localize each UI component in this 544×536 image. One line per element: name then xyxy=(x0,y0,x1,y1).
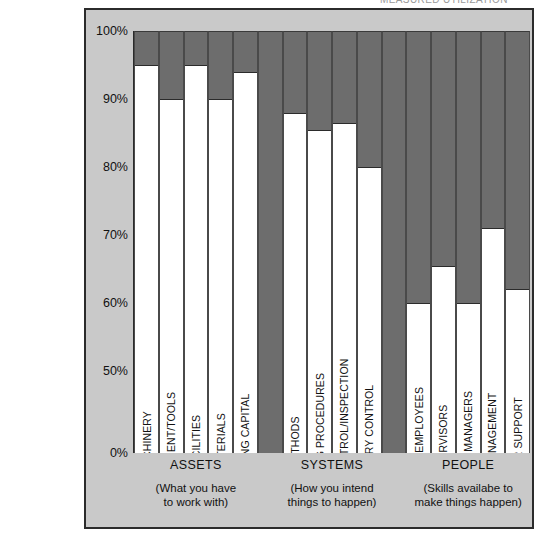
group-label-people: PEOPLE(Skills availabe tomake things hap… xyxy=(406,458,530,509)
group-name: PEOPLE xyxy=(406,458,530,472)
clipped-top-caption: MEASURED UTILIZATION xyxy=(380,0,530,5)
bar-fill: WORKING CAPITAL xyxy=(234,72,257,453)
y-axis-tick-label: 60% xyxy=(103,296,128,310)
bar-column[interactable]: TOP MANAGEMENT xyxy=(481,31,506,453)
bar-fill: TOP MANAGEMENT xyxy=(482,228,505,453)
y-axis: 100%90%80%70%60%50%0% xyxy=(86,31,134,453)
group-description-line: (What you have xyxy=(134,481,258,495)
y-axis-tick-label: 80% xyxy=(103,160,128,174)
bar-fill: MIDDLE MANAGERS xyxy=(457,303,480,453)
bar-column[interactable]: EQUIPMENT/TOOLS xyxy=(159,31,184,453)
group-separator-column xyxy=(382,31,407,453)
group-description: (How you intendthings to happen) xyxy=(283,481,382,509)
chart-figure: 100%90%80%70%60%50%0% MACHINERYEQUIPMENT… xyxy=(84,8,534,529)
bar-category-label: MATERIALS xyxy=(209,249,232,449)
bar-category-label: MACHINERY xyxy=(135,249,158,449)
bar-column[interactable]: WORKING CAPITAL xyxy=(233,31,258,453)
group-name: SYSTEMS xyxy=(283,458,382,472)
bar-category-label: QUALITY CONTROL/INSPECTION xyxy=(333,249,356,449)
bar-fill: MACHINERY xyxy=(135,65,158,453)
y-axis-tick-label: 50% xyxy=(103,364,128,378)
bar-column[interactable]: OTHER SUPPORT xyxy=(505,31,530,453)
bar-category-label: FACILITIES xyxy=(185,249,208,449)
group-description-line: things to happen) xyxy=(283,495,382,509)
bar-fill: SUPERVISORS xyxy=(432,266,455,453)
group-name: ASSETS xyxy=(134,458,258,472)
bar-category-label: MIDDLE MANAGERS xyxy=(457,249,480,449)
y-axis-tick-label: 100% xyxy=(96,24,128,38)
bar-fill: HOURLY EMPLOYEES xyxy=(407,303,430,453)
clipped-top-caption-text: MEASURED UTILIZATION xyxy=(380,0,530,5)
group-description-line: (Skills availabe to xyxy=(406,481,530,495)
bar-column[interactable]: HOURLY EMPLOYEES xyxy=(406,31,431,453)
bar-column[interactable]: INVENTORY CONTROL xyxy=(357,31,382,453)
bar-column[interactable]: MIDDLE MANAGERS xyxy=(456,31,481,453)
bar-column[interactable]: FACILITIES xyxy=(184,31,209,453)
bar-column[interactable]: METHODS xyxy=(283,31,308,453)
bar-column[interactable]: QUALITY CONTROL/INSPECTION xyxy=(332,31,357,453)
group-label-systems: SYSTEMS(How you intendthings to happen) xyxy=(283,458,382,509)
group-description-line: make things happen) xyxy=(406,495,530,509)
bar-category-label: INVENTORY CONTROL xyxy=(358,249,381,449)
bar-fill: OTHER SUPPORT xyxy=(506,289,529,453)
bar-fill: OPERATING PROCEDURES xyxy=(308,130,331,453)
bar-category-label: OPERATING PROCEDURES xyxy=(308,249,331,449)
bar-category-label: EQUIPMENT/TOOLS xyxy=(160,249,183,449)
y-axis-tick-label: 70% xyxy=(103,228,128,242)
plot-area: MACHINERYEQUIPMENT/TOOLSFACILITIESMATERI… xyxy=(134,31,530,453)
group-separator-column xyxy=(258,31,283,453)
y-axis-tick-label: 90% xyxy=(103,92,128,106)
group-description-line: (How you intend xyxy=(283,481,382,495)
bar-category-label: OTHER SUPPORT xyxy=(506,249,529,449)
bar-fill: EQUIPMENT/TOOLS xyxy=(160,99,183,453)
bar-fill: INVENTORY CONTROL xyxy=(358,167,381,453)
y-axis-tick-label: 0% xyxy=(110,446,128,460)
bar-category-label: SUPERVISORS xyxy=(432,249,455,449)
bar-category-label: TOP MANAGEMENT xyxy=(482,249,505,449)
group-description-line: to work with) xyxy=(134,495,258,509)
bar-category-label: HOURLY EMPLOYEES xyxy=(407,249,430,449)
group-description: (Skills availabe tomake things happen) xyxy=(406,481,530,509)
bar-category-label: WORKING CAPITAL xyxy=(234,249,257,449)
bar-column[interactable]: OPERATING PROCEDURES xyxy=(307,31,332,453)
bar-column[interactable]: MACHINERY xyxy=(134,31,159,453)
bar-fill: METHODS xyxy=(284,113,307,453)
bar-fill: MATERIALS xyxy=(209,99,232,453)
group-label-row: ASSETS(What you haveto work with)SYSTEMS… xyxy=(134,458,530,526)
bar-column[interactable]: SUPERVISORS xyxy=(431,31,456,453)
group-label-assets: ASSETS(What you haveto work with) xyxy=(134,458,258,509)
bar-fill: FACILITIES xyxy=(185,65,208,453)
group-description: (What you haveto work with) xyxy=(134,481,258,509)
bar-fill: QUALITY CONTROL/INSPECTION xyxy=(333,123,356,453)
bar-category-label: METHODS xyxy=(284,249,307,449)
bar-column[interactable]: MATERIALS xyxy=(208,31,233,453)
